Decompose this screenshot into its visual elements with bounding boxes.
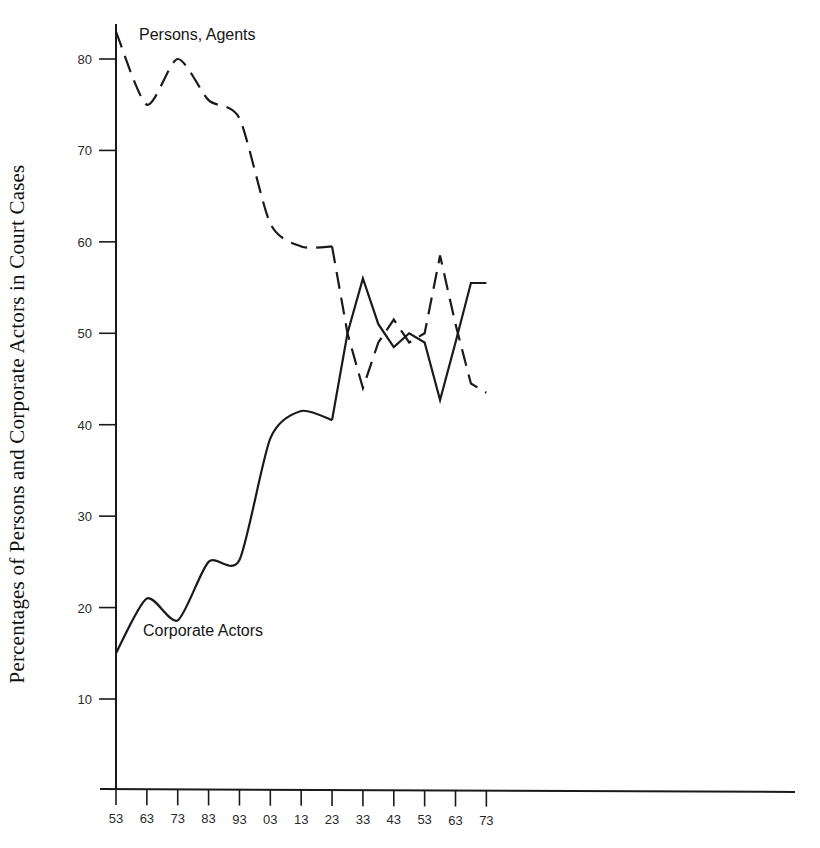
x-ticks-group: 53637383930313233343536373 [109, 789, 494, 828]
x-tick-label: 73 [479, 813, 493, 828]
x-tick-label: 43 [387, 812, 401, 827]
axes-group [100, 24, 795, 792]
x-axis-line [100, 789, 795, 792]
y-tick-label: 40 [78, 418, 92, 433]
x-tick-label: 83 [201, 811, 215, 826]
x-tick-label: 63 [140, 811, 154, 826]
x-tick-label: 63 [448, 813, 462, 828]
y-tick-label: 50 [78, 326, 92, 341]
x-tick-label: 93 [232, 812, 246, 827]
y-tick-label: 80 [78, 52, 92, 67]
y-tick-label: 20 [78, 601, 92, 616]
series-line-corporate-actors [332, 278, 486, 420]
series-line-persons-agents [116, 32, 332, 248]
chart-figure: Percentages of Persons and Corporate Act… [0, 0, 820, 848]
x-tick-label: 23 [325, 812, 339, 827]
x-tick-label: 33 [356, 812, 370, 827]
y-tick-label: 10 [78, 692, 92, 707]
x-tick-label: 53 [417, 812, 431, 827]
y-tick-label: 30 [78, 509, 92, 524]
line-chart-plot: 1020304050607080 53637383930313233343536… [0, 0, 820, 848]
x-tick-label: 53 [109, 811, 123, 826]
x-tick-label: 73 [170, 811, 184, 826]
x-tick-label: 03 [263, 812, 277, 827]
y-tick-label: 60 [78, 235, 92, 250]
series-line-persons-agents [332, 246, 486, 392]
y-ticks-group: 1020304050607080 [78, 52, 116, 707]
series-group [116, 32, 486, 654]
x-tick-label: 13 [294, 812, 308, 827]
series-label-persons: Persons, Agents [139, 26, 256, 44]
series-label-corporate: Corporate Actors [143, 622, 263, 640]
y-tick-label: 70 [78, 143, 92, 158]
series-line-corporate-actors [116, 411, 332, 654]
